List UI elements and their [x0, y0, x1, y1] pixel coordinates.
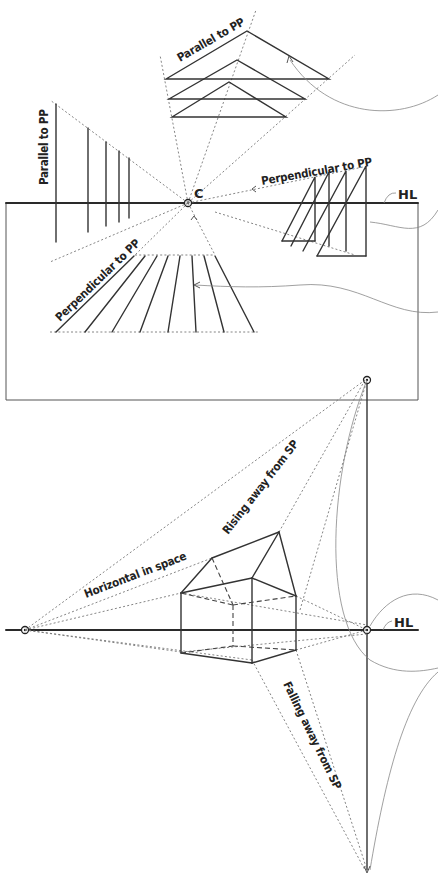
arc-curve: [336, 380, 438, 671]
label-parallel-top: Parallel to PP: [175, 14, 248, 64]
hl-pointer: [383, 621, 392, 630]
construction-line: [215, 212, 355, 255]
label-parallel-left: Parallel to PP: [37, 109, 51, 185]
perspective-diagram: C HL Parallel to PP Par: [0, 0, 438, 875]
label-perpendicular-bottom: Perpendicular to PP: [52, 236, 143, 324]
arrow-icon: [191, 216, 197, 220]
construction-line: [135, 203, 188, 255]
arc-curve: [370, 672, 438, 870]
construction-line: [160, 55, 188, 203]
label-falling: Falling away from SP: [280, 679, 345, 792]
construction-line: [188, 203, 215, 255]
top-panel: C HL Parallel to PP Par: [6, 10, 438, 400]
pointer-curve: [370, 210, 438, 228]
house-drawing: [181, 532, 296, 663]
vanishing-lines: [25, 380, 367, 870]
label-rising: Rising away from SP: [219, 437, 301, 537]
pointer-curve: [290, 60, 438, 111]
bottom-panel: HL: [6, 377, 438, 874]
parallel-verticals: [56, 104, 129, 242]
label-horizontal: Horizontal in space: [82, 549, 188, 601]
hl-pointer: [384, 193, 396, 203]
hl-label-bottom: HL: [394, 615, 413, 630]
hl-label-top: HL: [398, 187, 417, 202]
